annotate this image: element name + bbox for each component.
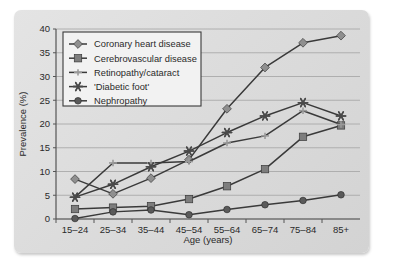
data-point: [186, 211, 193, 218]
data-point: [110, 209, 117, 216]
x-tick-label: 85+: [333, 224, 350, 235]
legend-marker: [75, 98, 82, 105]
data-point: [148, 207, 155, 214]
prevalence-line-chart: 0510152025303540 15–2425–3435–4445–5455–…: [0, 0, 397, 272]
legend-label: 'Diabetic foot': [94, 82, 149, 92]
x-tick-label: 15–24: [62, 224, 88, 235]
series-line: [75, 103, 341, 198]
x-tick-label: 75–84: [290, 224, 316, 235]
legend-label: Retinopathy/cataract: [94, 68, 180, 78]
chart-legend[interactable]: Coronary heart diseaseCerebrovascular di…: [63, 32, 201, 106]
data-point: [108, 180, 117, 188]
y-axis-tick-labels: 0510152025303540: [39, 23, 56, 224]
data-point: [71, 175, 80, 184]
y-tick-label: 30: [39, 71, 50, 82]
legend-label: Nephropathy: [94, 96, 148, 106]
data-point: [337, 31, 346, 40]
data-point: [147, 174, 156, 183]
x-tick-label: 25–34: [100, 224, 126, 235]
x-tick-label: 65–74: [252, 224, 278, 235]
legend-label: Cerebrovascular disease: [94, 54, 197, 64]
data-point: [300, 197, 307, 204]
data-point: [260, 112, 269, 120]
data-point: [223, 183, 230, 190]
y-axis-title: Prevalence (%): [17, 92, 28, 157]
data-point: [222, 129, 231, 137]
data-point: [71, 205, 78, 212]
data-point: [224, 206, 231, 213]
data-point: [109, 189, 118, 198]
y-tick-label: 35: [39, 47, 50, 58]
data-point: [299, 133, 306, 140]
x-tick-label: 35–44: [138, 224, 164, 235]
y-tick-label: 5: [45, 190, 50, 201]
data-point: [262, 201, 269, 208]
data-point: [184, 147, 193, 155]
y-tick-label: 0: [45, 213, 50, 224]
y-tick-label: 40: [39, 23, 50, 34]
x-axis-tick-labels: 15–2425–3435–4445–5455–6465–7475–8485+: [56, 219, 350, 235]
data-point: [185, 195, 192, 202]
data-point: [72, 215, 79, 222]
data-point: [336, 112, 345, 120]
y-tick-label: 15: [39, 142, 50, 153]
data-point: [338, 191, 345, 198]
y-tick-label: 10: [39, 166, 50, 177]
series-4: [70, 99, 345, 201]
legend-label: Coronary heart disease: [94, 39, 191, 49]
data-point: [223, 140, 231, 146]
y-tick-label: 20: [39, 118, 50, 129]
legend-marker: [74, 55, 81, 62]
data-point: [261, 165, 268, 172]
y-tick-label: 25: [39, 95, 50, 106]
chart-canvas: 0510152025303540 15–2425–3435–4445–5455–…: [0, 0, 397, 272]
x-axis-title: Age (years): [183, 234, 232, 245]
data-point: [299, 38, 308, 47]
